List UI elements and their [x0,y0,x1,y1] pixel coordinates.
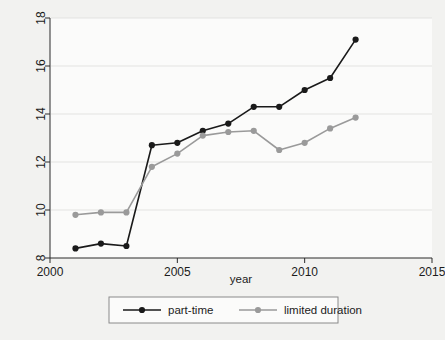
data-point-1-2006 [200,133,206,139]
data-point-0-2001 [72,245,78,251]
legend-label-0: part-time [168,304,213,316]
data-point-0-2009 [276,104,282,110]
data-point-0-2008 [251,104,257,110]
chart-legend: part-timelimited duration [109,297,362,323]
x-tick-label-2010: 2010 [291,265,318,279]
data-point-0-2003 [123,243,129,249]
data-point-1-2012 [353,115,359,121]
legend-label-1: limited duration [284,304,362,316]
data-point-1-2002 [98,209,104,215]
y-tick-label-18: 18 [34,11,48,25]
data-point-0-2007 [225,121,231,127]
data-point-1-2005 [174,151,180,157]
data-point-1-2003 [123,209,129,215]
y-tick-label-12: 12 [34,155,48,169]
data-point-1-2011 [327,125,333,131]
line-chart: 81012141618 2000200520102015 year part-t… [0,0,445,340]
y-tick-label-16: 16 [34,59,48,73]
legend-marker-1 [255,307,261,313]
chart-figure: 81012141618 2000200520102015 year part-t… [0,0,445,340]
x-tick-label-2005: 2005 [164,265,191,279]
data-point-1-2004 [149,164,155,170]
data-point-1-2001 [72,212,78,218]
data-point-1-2010 [302,140,308,146]
data-point-0-2004 [149,142,155,148]
data-point-0-2012 [353,37,359,43]
legend-marker-0 [139,307,145,313]
data-point-0-2005 [174,140,180,146]
data-point-1-2009 [276,147,282,153]
y-tick-label-10: 10 [34,203,48,217]
x-tick-label-2015: 2015 [419,265,445,279]
data-point-1-2007 [225,129,231,135]
x-axis-title: year [230,273,253,285]
y-tick-label-8: 8 [34,254,48,261]
plot-area-background [50,18,432,258]
data-point-0-2010 [302,87,308,93]
x-tick-label-2000: 2000 [37,265,64,279]
data-point-0-2011 [327,75,333,81]
data-point-1-2008 [251,128,257,134]
data-point-0-2002 [98,241,104,247]
y-tick-label-14: 14 [34,107,48,121]
